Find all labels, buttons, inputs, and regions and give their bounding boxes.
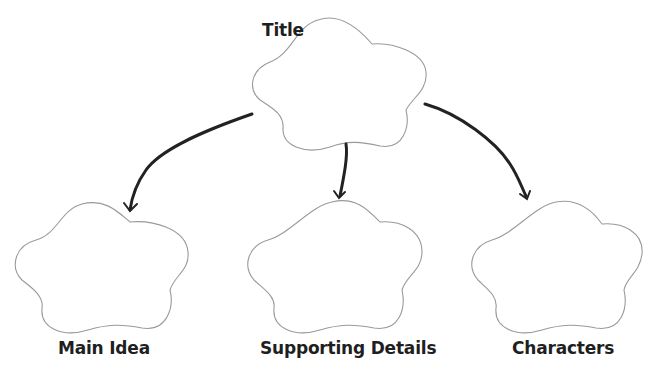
main-idea-cloud-shape: [15, 203, 188, 333]
arrow-to-characters: [425, 104, 530, 199]
supporting-details-label: Supporting Details: [260, 338, 436, 358]
characters-label: Characters: [512, 338, 614, 358]
main-idea-label: Main Idea: [58, 338, 150, 358]
characters-cloud-shape: [472, 201, 642, 333]
arrow-to-supporting-details: [334, 144, 347, 198]
diagram-canvas: [0, 0, 652, 370]
arrow-to-main-idea: [124, 114, 252, 211]
supporting-details-cloud-shape: [248, 201, 422, 333]
title-label: Title: [262, 20, 304, 40]
